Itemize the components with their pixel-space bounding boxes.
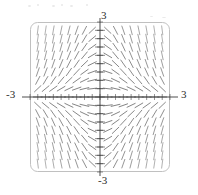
scan-speck (61, 4, 63, 6)
x-axis-min-label: -3 (6, 89, 15, 100)
scan-speck (52, 5, 55, 7)
scan-speck (162, 17, 166, 18)
scan-speck (37, 4, 39, 6)
y-axis-max-label: 3 (101, 10, 107, 21)
slope-field-plot (0, 0, 198, 195)
scan-speck (28, 5, 31, 7)
x-axis-max-label: 3 (181, 89, 187, 100)
scan-speck (86, 4, 88, 6)
scan-speck (150, 16, 153, 17)
scan-speck (70, 5, 73, 7)
y-axis-min-label: -3 (98, 175, 107, 186)
slope-field-figure: 3 -3 -3 3 (0, 0, 198, 195)
